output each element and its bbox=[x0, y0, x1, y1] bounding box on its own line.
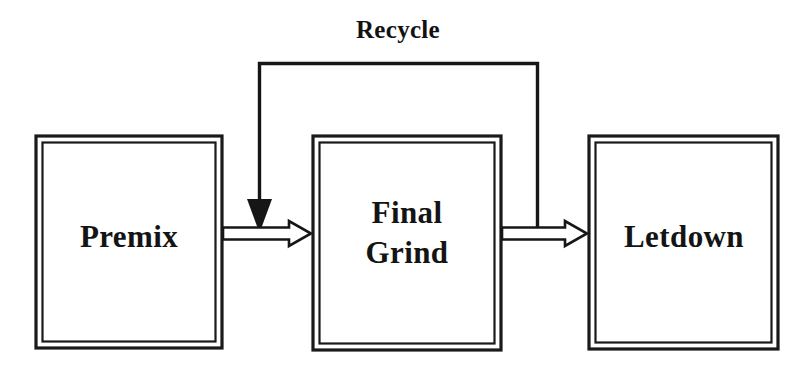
node-final-grind[interactable]: Final Grind bbox=[313, 136, 501, 350]
edge-final-grind-to-letdown[interactable] bbox=[502, 221, 587, 246]
arrow-final-grind-to-letdown-icon bbox=[502, 221, 587, 246]
premix-label: Premix bbox=[80, 219, 178, 254]
edge-premix-to-final-grind[interactable] bbox=[223, 221, 311, 246]
flow-diagram-canvas: Premix Final Grind Letdown Recycle bbox=[0, 0, 805, 372]
final-grind-label-line-1: Final bbox=[372, 195, 443, 230]
node-letdown[interactable]: Letdown bbox=[589, 136, 778, 349]
letdown-label: Letdown bbox=[624, 219, 744, 254]
recycle-edge-label: Recycle bbox=[356, 16, 440, 43]
final-grind-label-line-2: Grind bbox=[366, 235, 449, 270]
node-premix[interactable]: Premix bbox=[36, 136, 222, 348]
process-flow-diagram: Premix Final Grind Letdown Recycle bbox=[0, 0, 805, 372]
arrow-premix-to-final-grind-icon bbox=[223, 221, 311, 246]
